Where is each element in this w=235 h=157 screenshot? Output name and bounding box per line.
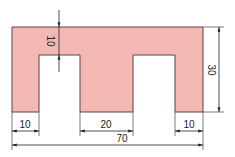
dim-left-tooth-label: 10 <box>19 119 31 130</box>
dim-right-tooth-label: 10 <box>183 119 195 130</box>
dim-slot-depth-label: 10 <box>45 35 56 47</box>
dim-overall-width-label: 70 <box>116 133 128 144</box>
part-shape <box>12 27 203 112</box>
dim-height-label: 30 <box>206 64 217 76</box>
technical-drawing: 10 30 10 20 10 70 <box>0 0 235 157</box>
dim-middle-gap-label: 20 <box>100 119 112 130</box>
